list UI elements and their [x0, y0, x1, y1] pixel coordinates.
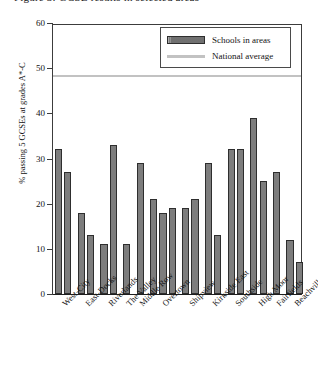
bar	[260, 181, 267, 294]
y-tick-mark	[47, 23, 53, 24]
bar	[55, 149, 62, 294]
bar	[250, 118, 257, 294]
bar	[64, 172, 71, 294]
figure-title: Figure 3: GCSE results in selected areas	[14, 0, 199, 3]
y-tick-label: 0	[41, 289, 46, 299]
bar	[228, 149, 235, 294]
bar	[205, 163, 212, 294]
legend-label-schools: Schools in areas	[212, 35, 271, 45]
bar	[191, 199, 198, 294]
y-tick-label: 30	[36, 154, 45, 164]
y-axis-title: % passing 5 GCSEs at grades A*-C	[17, 23, 27, 223]
figure-chart: Figure 3: GCSE results in selected areas…	[0, 0, 318, 386]
chart-legend: Schools in areas National average	[160, 27, 291, 68]
bar	[137, 163, 144, 294]
bar	[273, 172, 280, 294]
y-tick-mark	[47, 294, 53, 295]
legend-label-national-average: National average	[212, 51, 273, 61]
y-tick-label: 10	[36, 244, 45, 254]
legend-swatch-line-icon	[167, 55, 205, 58]
y-tick-label: 50	[36, 63, 45, 73]
y-tick-label: 40	[36, 108, 45, 118]
y-tick-label: 20	[36, 199, 45, 209]
legend-swatch-bar-icon	[167, 36, 205, 44]
legend-item-national-average: National average	[167, 48, 284, 64]
legend-item-schools: Schools in areas	[167, 32, 284, 48]
y-tick-label: 60	[36, 18, 45, 28]
